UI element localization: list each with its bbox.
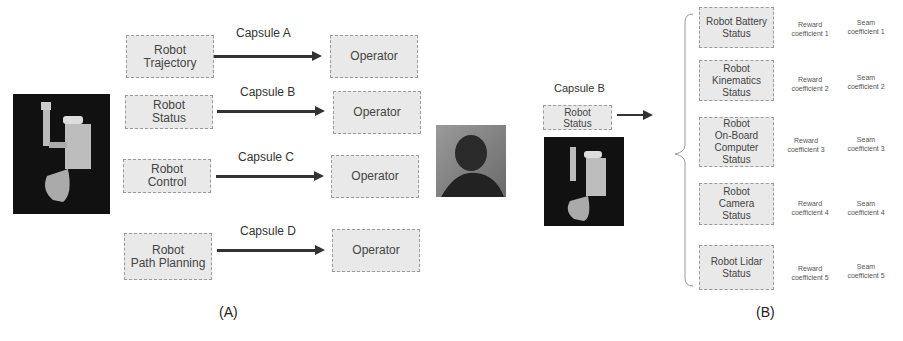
panel-b-label: (B): [756, 304, 775, 320]
operator-box-a: Operator: [330, 35, 418, 78]
reward-coefficient-4: Reward coefficient 4: [780, 199, 840, 217]
seam-coefficient-4: Seam coefficient 4: [836, 199, 896, 217]
arrow-to-status-list: [617, 114, 645, 116]
operator-box-c: Operator: [331, 155, 419, 198]
arrow-a: [214, 55, 314, 58]
brace-connector: [655, 10, 695, 310]
capsule-label-c: Capsule C: [238, 150, 294, 164]
robot-image-b: [544, 137, 624, 226]
operator-box-d: Operator: [332, 229, 420, 272]
seam-coefficient-2: Seam coefficient 2: [836, 73, 896, 91]
capsule-label-a: Capsule A: [236, 26, 291, 40]
seam-coefficient-1: Seam coefficient 1: [836, 18, 896, 36]
status-box-kinematics: Robot Kinematics Status: [699, 60, 774, 101]
arrow-b: [217, 110, 317, 113]
source-box-robot-status-b: Robot Status: [543, 105, 612, 130]
operator-photo: [436, 125, 506, 197]
source-box-status: Robot Status: [125, 95, 213, 129]
robot-image: [13, 94, 110, 214]
status-box-battery: Robot Battery Status: [699, 7, 774, 48]
status-box-camera: Robot Camera Status: [699, 183, 774, 225]
reward-coefficient-3: Reward coefficient 3: [776, 136, 836, 154]
capsule-label-d: Capsule D: [240, 224, 296, 238]
source-box-path-planning: Robot Path Planning: [124, 233, 212, 280]
panel-a-label: (A): [219, 304, 238, 320]
seam-coefficient-5: Seam coefficient 5: [836, 262, 896, 280]
seam-coefficient-3: Seam coefficient 3: [836, 135, 896, 153]
status-box-lidar: Robot Lidar Status: [699, 245, 774, 290]
source-box-trajectory: Robot Trajectory: [126, 35, 214, 78]
status-box-onboard-computer: Robot On-Board Computer Status: [699, 117, 774, 167]
capsule-label-b: Capsule B: [240, 85, 295, 99]
operator-box-b: Operator: [333, 91, 421, 134]
reward-coefficient-1: Reward coefficient 1: [780, 20, 840, 38]
capsule-label-b-detail: Capsule B: [554, 82, 605, 94]
reward-coefficient-5: Reward coefficient 5: [780, 264, 840, 282]
arrow-d: [217, 249, 317, 252]
arrow-c: [216, 175, 316, 178]
reward-coefficient-2: Reward coefficient 2: [780, 75, 840, 93]
source-box-control: Robot Control: [123, 159, 211, 193]
